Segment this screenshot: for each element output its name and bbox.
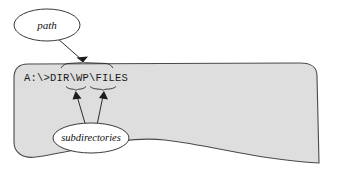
figure-canvas: A:\>DIR\WP\FILES path subdirectories xyxy=(0,0,337,179)
path-callout-label: path xyxy=(36,19,57,31)
diagram-svg: A:\>DIR\WP\FILES path subdirectories xyxy=(0,0,337,179)
path-callout: path xyxy=(14,9,80,41)
command-line-text: A:\>DIR\WP\FILES xyxy=(24,72,128,84)
subdirectories-callout: subdirectories xyxy=(53,123,129,153)
path-leader-line xyxy=(57,38,82,60)
path-arrowhead xyxy=(77,57,89,63)
subdirectories-callout-label: subdirectories xyxy=(61,132,121,143)
